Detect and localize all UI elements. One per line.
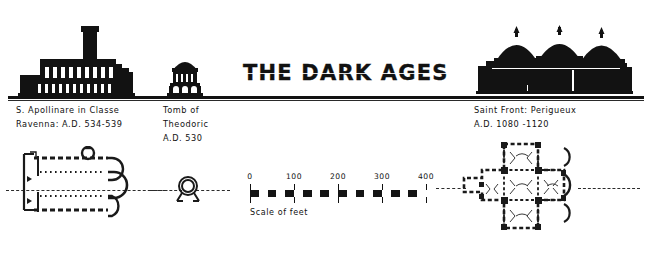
scale-ticks-lower — [250, 197, 426, 203]
elevation-s-apollinare-in-classe — [14, 26, 142, 98]
page-title: THE DARK AGES — [243, 63, 441, 84]
caption-line: A.D. 1080 -1120 — [474, 117, 576, 131]
plan-tomb-of-theodoric — [170, 168, 206, 208]
scale-caption: Scale of feet — [250, 208, 426, 217]
scale-bar-blocks — [250, 190, 426, 197]
caption-s-apollinare-in-classe: S. Apollinare in Classe Ravenna: A.D. 53… — [16, 103, 123, 131]
caption-line: S. Apollinare in Classe — [16, 103, 123, 117]
scale-tick-label: 0 — [247, 172, 252, 181]
scale-tick-label: 300 — [374, 172, 390, 181]
caption-line: A.D. 530 — [163, 131, 209, 145]
page-title-text: THE DARK AGES — [243, 63, 449, 84]
plan-saint-front-perigueux — [452, 140, 594, 232]
caption-line: Saint Front: Perigueux — [474, 103, 576, 117]
scale-tick-labels: 0 100 200 300 400 — [250, 172, 426, 184]
architectural-plate: S. Apollinare in Classe Ravenna: A.D. 53… — [0, 0, 652, 259]
caption-tomb-of-theodoric: Tomb of Theodoric A.D. 530 — [163, 103, 209, 145]
elevation-tomb-of-theodoric — [163, 54, 207, 98]
scale-tick-label: 100 — [286, 172, 302, 181]
scale-tick-label: 200 — [330, 172, 346, 181]
plan-s-apollinare-in-classe — [14, 146, 150, 224]
elevation-saint-front-perigueux — [472, 25, 634, 99]
scale-bar: 0 100 200 300 400 Scale of feet — [250, 172, 426, 217]
caption-line: Theodoric — [163, 117, 209, 131]
caption-line: Ravenna: A.D. 534-539 — [16, 117, 123, 131]
caption-saint-front-perigueux: Saint Front: Perigueux A.D. 1080 -1120 — [474, 103, 576, 131]
caption-line: Tomb of — [163, 103, 209, 117]
scale-tick-label: 400 — [418, 172, 434, 181]
